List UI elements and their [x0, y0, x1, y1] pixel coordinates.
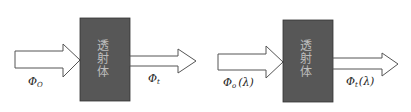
input-flux-label: ΦO	[28, 75, 43, 89]
box-label-char-2: 射	[97, 51, 109, 66]
output-flux-label: Φt(λ)	[346, 75, 374, 89]
diagram-2: 透 射 体 Φo(λ) Φt(λ)	[218, 20, 398, 102]
output-arrow-icon	[130, 49, 196, 73]
box-label-char-3: 体	[97, 65, 109, 79]
output-flux-label: Φt	[148, 72, 160, 86]
input-flux-label: Φo(λ)	[223, 76, 254, 90]
box-label-char-2: 射	[300, 51, 312, 66]
input-arrow-icon	[15, 44, 80, 77]
input-arrow-icon	[218, 46, 283, 78]
box-label-char-3: 体	[300, 65, 312, 79]
transmission-diagram: 透 射 体 ΦO Φt 透 射 体 Φo(λ) Φt(λ)	[0, 0, 411, 112]
diagram-1: 透 射 体 ΦO Φt	[15, 18, 196, 101]
output-arrow-icon	[333, 53, 398, 76]
box-label-char-1: 透	[300, 39, 312, 53]
box-label-char-1: 透	[97, 39, 109, 53]
